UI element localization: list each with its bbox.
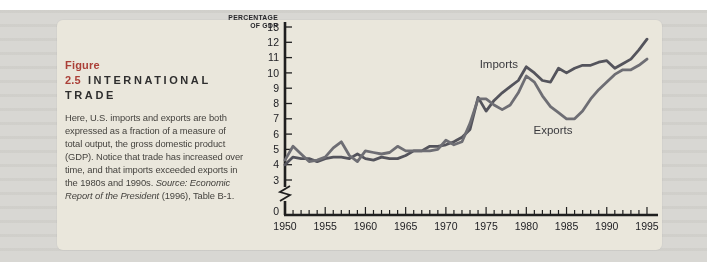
y-tick-label-11: 11 bbox=[268, 51, 279, 63]
trade-line-chart: 0345678910111213195019551960196519701975… bbox=[0, 0, 707, 271]
y-tick-label-8: 8 bbox=[273, 97, 279, 109]
y-tick-label-4: 4 bbox=[273, 158, 279, 170]
series-label-imports: Imports bbox=[480, 58, 519, 70]
series-line-exports bbox=[285, 59, 647, 162]
x-tick-label-1995: 1995 bbox=[635, 220, 659, 232]
x-tick-label-1955: 1955 bbox=[314, 220, 338, 232]
series-line-imports bbox=[285, 39, 647, 165]
x-tick-label-1950: 1950 bbox=[273, 220, 297, 232]
axis-break-mark bbox=[280, 186, 290, 201]
y-tick-label-7: 7 bbox=[273, 112, 279, 124]
y-tick-label-12: 12 bbox=[267, 36, 279, 48]
y-tick-label-3: 3 bbox=[273, 174, 279, 186]
y-tick-label-6: 6 bbox=[273, 128, 279, 140]
y-tick-label-9: 9 bbox=[273, 82, 279, 94]
x-tick-label-1975: 1975 bbox=[474, 220, 498, 232]
y-tick-label-5: 5 bbox=[273, 143, 279, 155]
y-tick-label-0: 0 bbox=[273, 205, 279, 217]
x-tick-label-1990: 1990 bbox=[595, 220, 619, 232]
y-tick-label-10: 10 bbox=[267, 67, 279, 79]
x-tick-label-1980: 1980 bbox=[515, 220, 539, 232]
x-tick-label-1970: 1970 bbox=[434, 220, 458, 232]
series-label-exports: Exports bbox=[534, 124, 573, 136]
x-tick-label-1985: 1985 bbox=[555, 220, 579, 232]
x-tick-label-1965: 1965 bbox=[394, 220, 418, 232]
x-tick-label-1960: 1960 bbox=[354, 220, 378, 232]
y-tick-label-13: 13 bbox=[267, 21, 279, 33]
